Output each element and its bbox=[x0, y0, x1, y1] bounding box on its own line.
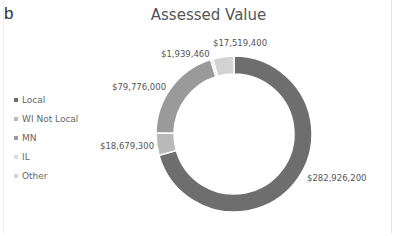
donut-chart: $282,926,200 $18,679,300 $79,776,000 $1,… bbox=[0, 0, 393, 236]
data-label-mn: $79,776,000 bbox=[112, 82, 166, 92]
donut-segment-mn bbox=[156, 60, 216, 133]
donut-segment-wi-not-local bbox=[156, 133, 176, 156]
data-label-il: $1,939,460 bbox=[161, 49, 210, 59]
data-label-wi-not-local: $18,679,300 bbox=[100, 141, 154, 151]
data-label-other: $17,519,400 bbox=[213, 38, 267, 48]
data-label-local: $282,926,200 bbox=[307, 173, 366, 183]
